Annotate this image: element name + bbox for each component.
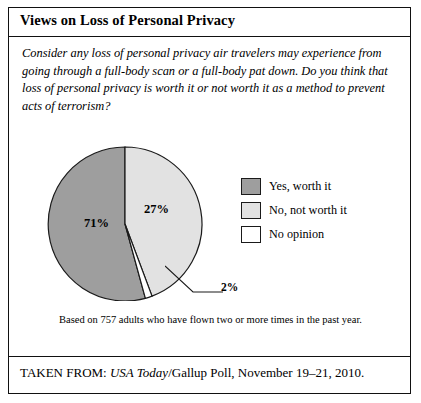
infographic-panel: Views on Loss of Personal Privacy Consid…: [8, 7, 411, 394]
legend: Yes, worth it No, not worth it No opinio…: [241, 178, 406, 250]
pie-graphic: 71% 27% 2%: [45, 146, 215, 301]
legend-swatch-icon-yes-worth-it: [241, 178, 261, 195]
basis-note: Based on 757 adults who have flown two o…: [9, 314, 412, 325]
source-citation: TAKEN FROM: USA Today/Gallup Poll, Novem…: [20, 365, 364, 381]
legend-item-no-opinion: No opinion: [241, 226, 406, 243]
legend-label-no-opinion: No opinion: [269, 227, 324, 242]
pie-chart: 71% 27% 2% Yes, worth it No, not worth i…: [9, 146, 412, 306]
pie-value-label-no-not-worth-it: 27%: [144, 202, 169, 217]
poll-question: Consider any loss of personal privacy ai…: [22, 45, 396, 115]
legend-swatch-icon-no-opinion: [241, 226, 261, 243]
title-bar: Views on Loss of Personal Privacy: [9, 8, 410, 37]
legend-item-yes-worth-it: Yes, worth it: [241, 178, 406, 195]
pie-value-label-yes-worth-it: 71%: [84, 216, 109, 231]
legend-item-no-not-worth-it: No, not worth it: [241, 202, 406, 219]
legend-swatch-icon-no-not-worth-it: [241, 202, 261, 219]
legend-label-yes-worth-it: Yes, worth it: [269, 179, 331, 194]
source-publication: USA Today: [110, 365, 168, 380]
page-title: Views on Loss of Personal Privacy: [20, 12, 235, 29]
pie-value-label-no-opinion: 2%: [221, 281, 238, 293]
source-prefix: TAKEN FROM:: [20, 365, 110, 380]
source-suffix: /Gallup Poll, November 19–21, 2010.: [168, 365, 364, 380]
source-bar: TAKEN FROM: USA Today/Gallup Poll, Novem…: [9, 356, 410, 393]
legend-label-no-not-worth-it: No, not worth it: [269, 203, 347, 218]
